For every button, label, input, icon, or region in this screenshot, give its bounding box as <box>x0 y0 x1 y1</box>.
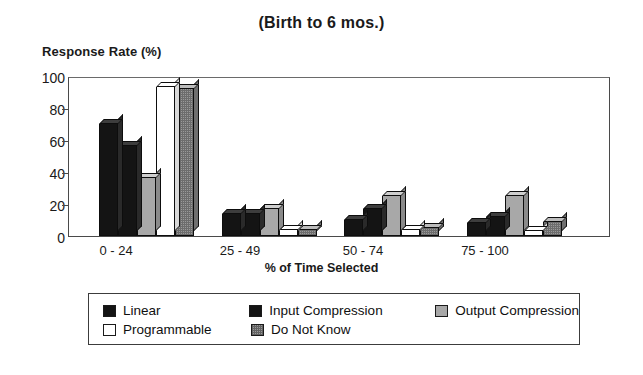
legend-label-programmable: Programmable <box>123 322 212 337</box>
legend-swatch-linear <box>103 305 116 317</box>
legend-label-linear: Linear <box>123 303 161 318</box>
y-tick-label-40: 40 <box>31 166 65 182</box>
bar-25-49-programmable <box>279 230 298 236</box>
bar-side <box>562 212 567 231</box>
plot-area <box>68 77 610 237</box>
legend-row-2: Programmable Do Not Know <box>103 320 579 339</box>
bar-group-1 <box>99 78 219 236</box>
legend-row-1: Linear Input Compression Output Compress… <box>103 301 579 320</box>
legend-item-do-not-know: Do Not Know <box>251 322 351 337</box>
legend-swatch-input-compression <box>249 305 262 317</box>
bar-face <box>524 231 543 236</box>
y-tick-label-80: 80 <box>31 102 65 118</box>
legend-swatch-do-not-know <box>251 324 264 336</box>
bar-face <box>222 214 241 236</box>
legend-swatch-output-compression <box>435 305 448 317</box>
x-tick-label-3: 75 - 100 <box>425 243 545 258</box>
bar-face <box>99 124 118 236</box>
x-axis-title: % of Time Selected <box>0 261 643 275</box>
bar-50-74-programmable <box>401 230 420 236</box>
bar-face <box>344 220 363 236</box>
bar-face <box>420 228 439 236</box>
legend-swatch-programmable <box>103 324 116 336</box>
chart-legend: Linear Input Compression Output Compress… <box>88 293 580 345</box>
bar-side <box>118 114 123 231</box>
legend-label-output-compression: Output Compression <box>455 303 579 318</box>
bar-25-49-linear <box>222 214 241 236</box>
bar-face <box>298 230 317 236</box>
legend-label-do-not-know: Do Not Know <box>271 322 351 337</box>
bar-0-24-linear <box>99 124 118 236</box>
bar-group-4 <box>467 78 587 236</box>
bar-50-74-do-not-know <box>420 228 439 236</box>
bar-25-49-do-not-know <box>298 230 317 236</box>
bar-side <box>137 136 142 231</box>
bar-face <box>467 223 486 236</box>
x-tick-label-0: 0 - 24 <box>56 243 176 258</box>
legend-item-output-compression: Output Compression <box>435 303 579 318</box>
chart-title: (Birth to 6 mos.) <box>0 14 643 32</box>
y-tick-label-100: 100 <box>31 70 65 86</box>
bar-group-3 <box>344 78 464 236</box>
bar-75-100-programmable <box>524 231 543 236</box>
legend-item-input-compression: Input Compression <box>249 303 435 318</box>
bars-container <box>69 78 609 236</box>
bar-side <box>175 77 180 231</box>
bar-side <box>194 79 199 231</box>
y-tick-label-20: 20 <box>31 198 65 214</box>
bar-50-74-linear <box>344 220 363 236</box>
bar-side <box>156 168 161 231</box>
legend-item-linear: Linear <box>103 303 249 318</box>
bar-face <box>401 230 420 236</box>
bar-75-100-linear <box>467 223 486 236</box>
x-tick-label-2: 50 - 74 <box>303 243 423 258</box>
legend-label-input-compression: Input Compression <box>269 303 382 318</box>
bar-side <box>241 204 246 231</box>
bar-face <box>279 230 298 236</box>
y-axis-title: Response Rate (%) <box>42 44 161 59</box>
bar-side <box>260 204 265 231</box>
legend-item-programmable: Programmable <box>103 322 251 337</box>
chart-page: (Birth to 6 mos.) Response Rate (%) 100 … <box>0 0 643 375</box>
y-tick-label-60: 60 <box>31 134 65 150</box>
bar-group-2 <box>222 78 342 236</box>
x-tick-label-1: 25 - 49 <box>180 243 300 258</box>
